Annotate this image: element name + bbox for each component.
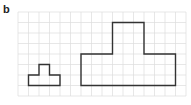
grid-diagram [0, 0, 191, 105]
